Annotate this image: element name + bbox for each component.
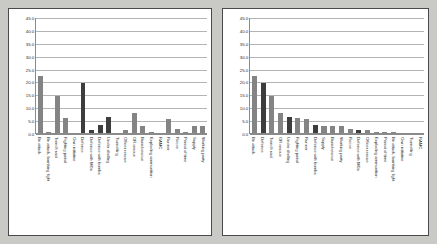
y-tick-label: 10.0	[240, 106, 248, 111]
bar	[269, 96, 274, 133]
x-label-cell: Working party	[337, 136, 346, 232]
x-tick-label: Working party	[200, 137, 205, 162]
x-label-cell: Bn attack	[35, 136, 44, 232]
x-label-cell: Recce	[345, 136, 354, 232]
y-tick-label: 5.0	[28, 119, 34, 124]
x-tick-label: Recce	[347, 137, 352, 149]
bar	[38, 76, 43, 133]
bar	[98, 125, 103, 133]
x-tick-label: Working party	[338, 137, 343, 162]
x-tick-label: Own initiative	[400, 137, 405, 161]
x-label-cell: RAMC	[415, 136, 424, 232]
y-tick-label: 15.0	[26, 93, 34, 98]
bar-cell	[372, 18, 381, 133]
bar	[200, 126, 205, 133]
x-tick-label: Supply	[321, 137, 326, 150]
bar-series-left	[36, 18, 207, 133]
bar-cell	[302, 18, 311, 133]
x-tick-label: RAMC	[417, 137, 422, 149]
plot-frame-right	[249, 18, 424, 134]
y-tick-label: 45.0	[26, 16, 34, 21]
bar	[63, 118, 68, 133]
x-label-cell: RAMC	[155, 136, 164, 232]
bar	[278, 113, 283, 133]
bar-cell	[104, 18, 113, 133]
bar	[175, 129, 180, 133]
x-label-cell: Supply	[190, 136, 199, 232]
bar-cell	[87, 18, 96, 133]
x-label-cell: Fighting patrol	[61, 136, 70, 232]
x-label-cell: Trench raid	[52, 136, 61, 232]
x-label-cell: Defence with MGs	[87, 136, 96, 232]
bar-cell	[415, 18, 424, 133]
x-label-cell: Runner	[164, 136, 173, 232]
bar	[313, 125, 318, 133]
x-tick-label: Under shelling	[106, 137, 111, 163]
bar-cell	[190, 18, 199, 133]
x-label-cell: Trench raid	[267, 136, 276, 232]
plot-area-left: 0.05.010.015.020.025.030.035.040.045.0 B…	[9, 9, 211, 235]
bar-cell	[381, 18, 390, 133]
bar	[287, 117, 292, 133]
x-tick-label: Own initiative	[71, 137, 76, 161]
x-tick-label: Fighting patrol	[63, 137, 68, 163]
x-label-cell: Burial rescue	[138, 136, 147, 232]
x-label-cell: Supply	[319, 136, 328, 232]
bar-cell	[198, 18, 207, 133]
x-label-cell: OR rescue	[275, 136, 284, 232]
bar-cell	[337, 18, 346, 133]
x-label-cell: Under shelling	[284, 136, 293, 232]
bar-cell	[354, 18, 363, 133]
bar	[166, 119, 171, 133]
bar-cell	[294, 18, 303, 133]
bar	[330, 126, 335, 133]
x-tick-label: Trench raid	[268, 137, 273, 158]
bar	[339, 126, 344, 133]
x-label-cell: Tunnelling	[112, 136, 121, 232]
x-label-cell: Runner	[302, 136, 311, 232]
x-tick-label: Fighting patrol	[295, 137, 300, 163]
bar-cell	[250, 18, 259, 133]
x-tick-label: OR rescue	[277, 137, 282, 157]
bar-cell	[53, 18, 62, 133]
bar-cell	[407, 18, 416, 133]
x-label-cell: Defence	[258, 136, 267, 232]
bar-cell	[62, 18, 71, 133]
y-tick-label: 20.0	[26, 80, 34, 85]
bar-cell	[328, 18, 337, 133]
x-tick-label: Period of time	[382, 137, 387, 162]
x-label-cell: Under shelling	[104, 136, 113, 232]
x-label-cell: Defence	[78, 136, 87, 232]
y-axis-tick-labels-right: 0.05.010.015.020.025.030.035.040.045.0	[226, 18, 248, 134]
y-tick-label: 10.0	[26, 106, 34, 111]
y-tick-label: 35.0	[26, 41, 34, 46]
x-tick-label: Trench raid	[54, 137, 59, 158]
x-axis-category-labels-left: Bn attackBn attack, bombing fightTrench …	[35, 136, 207, 232]
bar-cell	[267, 18, 276, 133]
x-tick-label: Recce	[174, 137, 179, 149]
bar-cell	[259, 18, 268, 133]
x-tick-label: Officer rescue	[123, 137, 128, 163]
bar	[81, 83, 86, 133]
x-tick-label: Bn attack, bombing fight	[391, 137, 396, 181]
x-tick-label: Defence	[260, 137, 265, 152]
bar	[261, 83, 266, 133]
bar-cell	[320, 18, 329, 133]
y-tick-label: 20.0	[240, 80, 248, 85]
x-tick-label: Defence with MGs	[88, 137, 93, 171]
y-tick-label: 30.0	[26, 54, 34, 59]
x-tick-label: Exploding ammunition	[149, 137, 154, 178]
x-tick-label: Burial rescue	[140, 137, 145, 161]
bar-cell	[363, 18, 372, 133]
x-label-cell: Own initiative	[69, 136, 78, 232]
y-axis-tick-labels-left: 0.05.010.015.020.025.030.035.040.045.0	[12, 18, 34, 134]
x-label-cell: Exploding ammunition	[372, 136, 381, 232]
y-tick-label: 0.0	[28, 132, 34, 137]
bar	[382, 132, 387, 133]
x-label-cell: Bn attack	[249, 136, 258, 232]
x-label-cell: Period of time	[380, 136, 389, 232]
bar-cell	[285, 18, 294, 133]
bar-cell	[398, 18, 407, 133]
bar-cell	[389, 18, 398, 133]
bar-cell	[113, 18, 122, 133]
